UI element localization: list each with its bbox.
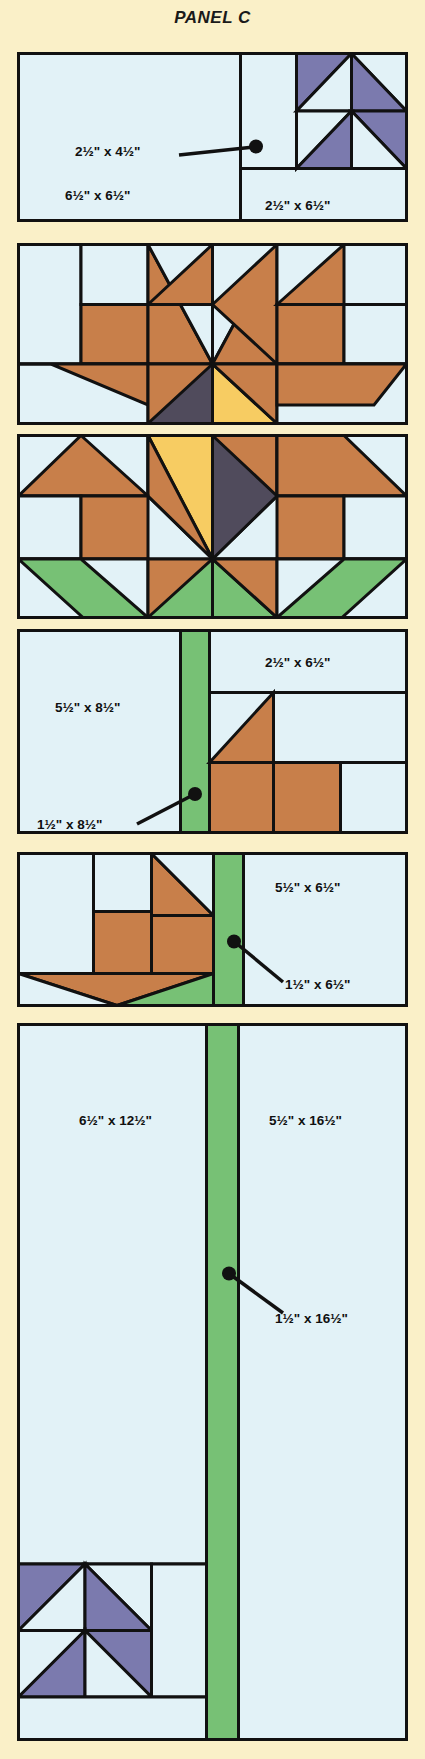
patch-stem-green-6 xyxy=(207,1025,239,1740)
patch-ml-brown-square xyxy=(81,496,148,559)
block-5-svg: 5½" x 6½" 1½" x 6½" xyxy=(17,852,408,1007)
patch-bud-lower-brown xyxy=(152,916,214,974)
patch-2x4-rect xyxy=(241,54,297,169)
block-5-stem-bud-left: 5½" x 6½" 1½" x 6½" xyxy=(17,852,408,1007)
patch-mr-brown-square xyxy=(277,496,344,559)
label-2x6-text-b4: 2½" x 6½" xyxy=(265,655,330,670)
patch-ml-light xyxy=(19,496,82,559)
label-2x4-text: 2½" x 4½" xyxy=(75,144,140,159)
patch-pinwheel-side-light xyxy=(152,1564,207,1697)
patch-top-small-light xyxy=(94,854,152,912)
block-4-svg: 5½" x 8½" 2½" x 6½" 1½" x 8½" xyxy=(17,629,408,834)
patch-ul-brown-square xyxy=(81,305,148,365)
patch-bud-lowright-light xyxy=(341,763,407,833)
patch-bud-brown-square xyxy=(274,763,341,833)
patch-stem-green-5 xyxy=(214,854,244,1006)
label-2x6-text: 2½" x 6½" xyxy=(265,198,330,213)
patch-ur-brown-square xyxy=(277,305,344,365)
label-1x16-text: 1½" x 16½" xyxy=(275,1311,348,1326)
label-6x6-text: 6½" x 6½" xyxy=(65,188,130,203)
block-1-pinwheel-corner: 2½" x 4½" 6½" x 6½" 2½" x 6½" xyxy=(17,52,408,222)
block-1-svg: 2½" x 4½" 6½" x 6½" 2½" x 6½" xyxy=(17,52,408,222)
page-title: PANEL C xyxy=(0,8,425,28)
block-3-svg xyxy=(17,434,408,619)
patch-far-right-light xyxy=(344,305,407,365)
patch-5x16-right xyxy=(239,1025,407,1740)
block-2-flower-top xyxy=(17,243,408,425)
patch-brown-square-5 xyxy=(94,912,152,974)
label-5x16-text: 5½" x 16½" xyxy=(269,1113,342,1128)
block-2-svg xyxy=(17,243,408,425)
patch-bud-lowleft-brown xyxy=(210,763,274,833)
label-5x8-text: 5½" x 8½" xyxy=(55,700,120,715)
label-6x12-text: 6½" x 12½" xyxy=(79,1113,152,1128)
patch-6x12-left xyxy=(19,1025,207,1565)
patch-ul-light xyxy=(81,245,148,305)
patch-5x8-left xyxy=(19,631,181,833)
label-1x8-text: 1½" x 8½" xyxy=(37,817,102,832)
patch-pinwheel-bottom-light xyxy=(19,1697,207,1740)
label-5x6-text: 5½" x 6½" xyxy=(275,880,340,895)
block-6-long-stem-pinwheel: 6½" x 12½" 5½" x 16½" 1½" x 16½" xyxy=(17,1023,408,1741)
block-4-stem-bud-right: 5½" x 8½" 2½" x 6½" 1½" x 8½" xyxy=(17,629,408,834)
block-3-flower-bottom xyxy=(17,434,408,619)
patch-mr-light xyxy=(344,496,407,559)
block-6-svg: 6½" x 12½" 5½" x 16½" 1½" x 16½" xyxy=(17,1023,408,1741)
patch-bud-right-light xyxy=(274,693,407,763)
label-1x6-text: 1½" x 6½" xyxy=(285,977,350,992)
patch-stem-green xyxy=(181,631,210,833)
